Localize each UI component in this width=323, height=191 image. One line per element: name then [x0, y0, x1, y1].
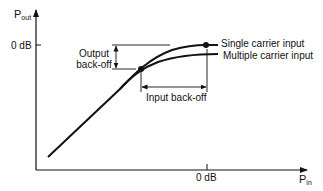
- y-axis-label: Pout: [14, 9, 31, 23]
- x-axis-tick-label: 0 dB: [196, 172, 217, 183]
- y-axis-label-sub: out: [21, 14, 31, 21]
- input-backoff-label: Input back-off: [146, 92, 206, 103]
- single-carrier-label: Single carrier input: [221, 38, 304, 49]
- y-axis-tick-label: 0 dB: [11, 40, 32, 51]
- x-axis-label: Pin: [299, 174, 312, 188]
- single-carrier-saturation-dot: [203, 42, 209, 48]
- multiple-carrier-curve: [120, 54, 218, 89]
- output-backoff-label-line1: Output: [76, 48, 112, 59]
- output-backoff-label-line2: back-off: [76, 59, 112, 70]
- x-axis-label-sub: in: [306, 179, 311, 186]
- multiple-carrier-operating-dot: [138, 66, 144, 72]
- output-backoff-label: Output back-off: [76, 48, 112, 70]
- multiple-carrier-label: Multiple carrier input: [223, 50, 313, 61]
